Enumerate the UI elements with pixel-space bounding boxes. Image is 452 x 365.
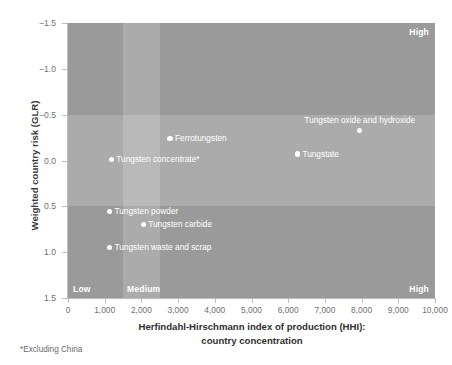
footnote: *Excluding China <box>20 345 82 354</box>
zone-label-high-top: High <box>409 27 429 37</box>
x-tick <box>141 298 142 303</box>
y-tick <box>62 115 67 116</box>
y-tick-label: −1.5 <box>0 18 56 28</box>
x-tick-label: 9,000 <box>388 305 409 315</box>
data-point-label: Tungsten oxide and hydroxide <box>304 115 415 125</box>
data-point-label: Tungsten concentrate* <box>116 154 199 164</box>
y-tick <box>62 298 67 299</box>
scatter-chart: HighLowMediumHighTungsten oxide and hydr… <box>0 0 452 365</box>
x-tick <box>325 298 326 303</box>
data-point-label: Tungsten waste and scrap <box>114 242 211 252</box>
y-tick-label: 1.5 <box>0 293 56 303</box>
data-point-label: Tungsten powder <box>114 206 178 216</box>
plot-area: HighLowMediumHighTungsten oxide and hydr… <box>68 23 435 298</box>
y-tick <box>62 161 67 162</box>
x-tick <box>215 298 216 303</box>
zone-label-medium-bottom: Medium <box>127 284 160 294</box>
x-axis-title: Herfindahl-Hirschmann index of productio… <box>68 320 436 347</box>
x-tick-label: 1,000 <box>94 305 115 315</box>
x-axis-title-line1: Herfindahl-Hirschmann index of productio… <box>68 320 436 334</box>
x-tick-label: 3,000 <box>168 305 189 315</box>
zone-label-high-bottom: High <box>409 284 429 294</box>
y-axis-title: Weighted country risk (GLR) <box>29 46 40 286</box>
x-tick-label: 2,000 <box>131 305 152 315</box>
x-axis-title-line2: country concentration <box>68 334 436 348</box>
x-tick-label: 0 <box>66 305 71 315</box>
data-point-label: Tungstate <box>302 149 339 159</box>
y-tick <box>62 252 67 253</box>
x-tick-label: 7,000 <box>314 305 335 315</box>
x-tick <box>252 298 253 303</box>
x-tick-label: 4,000 <box>204 305 225 315</box>
x-tick-label: 5,000 <box>241 305 262 315</box>
x-tick <box>435 298 436 303</box>
x-tick <box>68 298 69 303</box>
zone-label-low-bottom: Low <box>73 284 91 294</box>
x-tick-label: 10,000 <box>422 305 448 315</box>
x-tick <box>178 298 179 303</box>
data-point-marker <box>107 209 112 214</box>
x-tick <box>105 298 106 303</box>
x-tick-label: 8,000 <box>351 305 372 315</box>
data-point-marker <box>107 245 112 250</box>
data-point-label: Ferrotungsten <box>175 133 227 143</box>
data-point-marker <box>295 151 300 156</box>
x-tick-label: 6,000 <box>278 305 299 315</box>
y-tick <box>62 69 67 70</box>
y-tick <box>62 23 67 24</box>
data-point-marker <box>109 157 114 162</box>
y-tick <box>62 206 67 207</box>
x-tick <box>398 298 399 303</box>
x-tick <box>362 298 363 303</box>
data-point-marker <box>167 136 172 141</box>
data-point-label: Tungsten carbide <box>148 219 212 229</box>
x-tick <box>288 298 289 303</box>
y-axis-line <box>67 23 68 299</box>
